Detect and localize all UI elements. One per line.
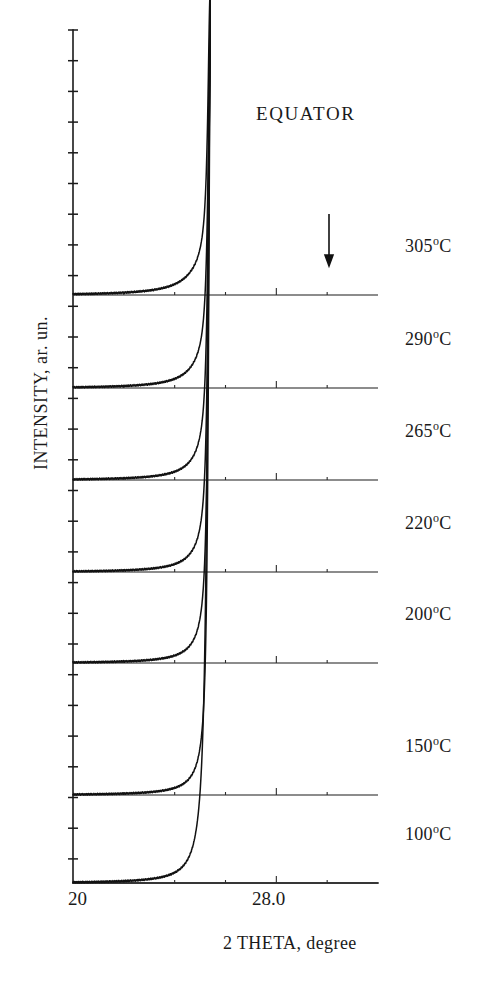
diffraction-trace xyxy=(73,0,378,663)
temperature-value: 100 xyxy=(405,824,433,844)
arrow-head xyxy=(325,255,333,266)
temperature-value: 200 xyxy=(405,604,433,624)
temperature-label: 265oC xyxy=(405,422,452,440)
temperature-label: 290oC xyxy=(405,330,452,348)
diffraction-trace xyxy=(73,0,378,883)
celsius-letter: C xyxy=(439,236,451,256)
temperature-value: 220 xyxy=(405,513,433,533)
temperature-label: 150oC xyxy=(405,737,452,755)
equator-annotation-label: EQUATOR xyxy=(256,104,356,123)
diffraction-trace xyxy=(73,0,378,295)
temperature-value: 265 xyxy=(405,421,433,441)
y-axis-title: INTENSITY, ar. un. xyxy=(32,313,50,473)
x-tick-label-28: 28.0 xyxy=(252,889,285,908)
diffraction-trace xyxy=(73,0,378,388)
temperature-value: 290 xyxy=(405,329,433,349)
xrd-figure: EQUATOR 20 28.0 2 THETA, degree INTENSIT… xyxy=(0,0,486,983)
x-tick-label-20: 20 xyxy=(68,889,87,908)
temperature-value: 150 xyxy=(405,736,433,756)
celsius-letter: C xyxy=(439,329,451,349)
temperature-label: 200oC xyxy=(405,605,452,623)
temperature-label: 305oC xyxy=(405,237,452,255)
diffraction-trace xyxy=(73,0,378,572)
diffraction-trace xyxy=(73,0,378,480)
celsius-letter: C xyxy=(439,513,451,533)
down-arrow-annotation xyxy=(325,214,333,266)
celsius-letter: C xyxy=(439,604,451,624)
temperature-label: 220oC xyxy=(405,514,452,532)
x-axis-title: 2 THETA, degree xyxy=(223,934,357,952)
axes-group xyxy=(68,30,378,883)
celsius-letter: C xyxy=(439,421,451,441)
temperature-value: 305 xyxy=(405,236,433,256)
celsius-letter: C xyxy=(439,736,451,756)
celsius-letter: C xyxy=(439,824,451,844)
temperature-label: 100oC xyxy=(405,825,452,843)
